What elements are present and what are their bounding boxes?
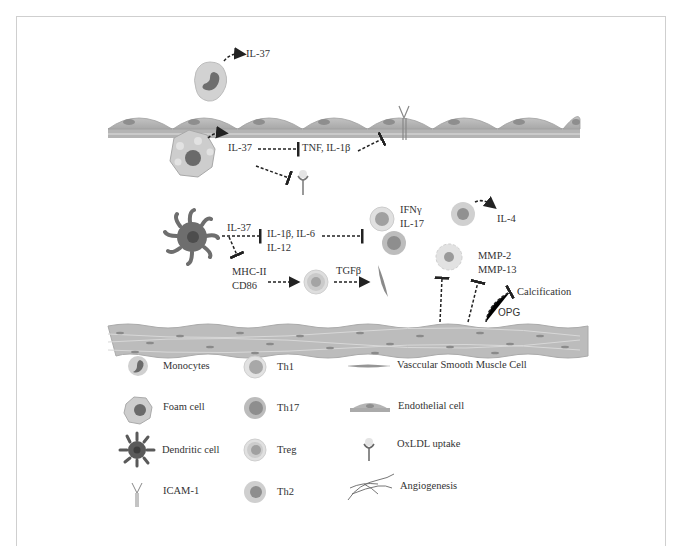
legend-label-icam1: ICAM-1 [163,485,199,496]
label-ifng: IFNγ [400,203,422,216]
legend-angiogenesis-icon [348,474,394,500]
label-mmp2: MMP-2 [478,249,511,262]
label-dc-il37: IL-37 [227,221,251,234]
label-il17: IL-17 [400,217,424,230]
legend-label-vsmc: Vasccular Smooth Muscle Cell [397,359,527,370]
vsmc-layer [108,324,588,358]
th17-icon [382,231,406,255]
label-monocyte-il37: IL-37 [246,47,270,60]
inhibit-icam1 [358,139,382,151]
oxldl-uptake-diagram-icon [298,170,308,195]
th1-icon [370,207,394,231]
label-opg: OPG [498,306,520,319]
inhibit-mhc-cd86 [229,237,237,255]
label-calcification: Calcification [517,285,571,298]
mmp-secreting-cell-icon [436,244,462,270]
legend-th1-icon [244,356,266,378]
label-tgfb: TGFβ [336,264,361,277]
inhibit-oxldl [256,166,289,178]
arrow-il4 [475,201,493,206]
legend-label-endothelial-cell: Endothelial cell [398,400,464,411]
legend-icam1-icon [132,483,142,507]
arrow-monocyte-il37 [224,54,242,61]
label-cd86: CD86 [232,279,257,292]
legend-label-oxldl-uptake: OxLDL uptake [397,438,460,449]
label-mhc-ii: MHC-II [232,265,266,278]
legend-label-th1: Th1 [277,361,294,372]
inhibit-mmp [468,282,478,322]
legend-th17-icon [244,397,266,419]
vsmc-icon [378,265,388,297]
legend-label-th17: Th17 [277,402,299,413]
legend-label-angiogenesis: Angiogenesis [400,480,457,491]
legend-label-th2: Th2 [277,486,294,497]
label-mmp13: MMP-13 [478,263,517,276]
label-foam-il37: IL-37 [228,141,252,154]
label-il4: IL-4 [497,212,516,225]
treg-icon [304,270,328,294]
label-il12: IL-12 [267,241,291,254]
inhibit-mmp-cell [440,278,442,322]
monocyte-icon [195,62,227,101]
legend-foam-cell-icon [124,397,152,424]
legend-treg-icon [244,439,266,461]
legend-th2-icon [244,481,266,503]
legend-dendritic-cell-icon [120,433,154,466]
legend-label-treg: Treg [277,444,296,455]
dendritic-cell-icon [165,210,218,264]
endothelium-layer [108,117,580,138]
legend-label-monocytes: Monocytes [163,360,210,371]
legend-oxldl-uptake-icon [364,438,374,461]
legend-endothelial-cell-icon [350,403,390,412]
label-tnf-il1b: TNF, IL-1β [302,141,350,154]
legend-label-dendritic-cell: Dendritic cell [162,444,219,455]
label-il1b-il6: IL-1β, IL-6 [267,227,315,240]
th2-icon [451,202,475,226]
legend-label-foam-cell: Foam cell [163,401,205,412]
legend-monocyte-icon [128,356,148,376]
legend-vsmc-icon [348,365,390,368]
